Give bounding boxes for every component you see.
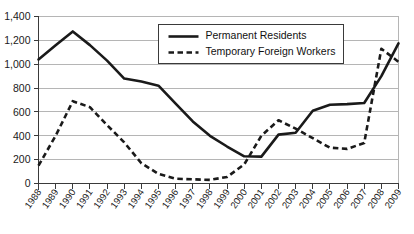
y-axis-tick-labels: 02004006008001,0001,2001,400 <box>4 10 30 189</box>
x-tick-label: 1988 <box>22 187 43 211</box>
legend-label: Temporary Foreign Workers <box>206 45 336 57</box>
y-tick-label: 400 <box>13 130 31 142</box>
x-tick-label: 1990 <box>56 187 77 211</box>
x-tick-label: 2005 <box>314 187 335 211</box>
y-tick-label: 200 <box>13 153 31 165</box>
chart-canvas: 02004006008001,0001,2001,400 19881989199… <box>0 0 414 234</box>
y-tick-label: 1,000 <box>4 58 30 70</box>
x-tick-label: 1991 <box>74 187 95 211</box>
x-tick-label: 2002 <box>262 187 283 211</box>
x-tick-label: 1999 <box>211 187 232 211</box>
x-tick-label: 1989 <box>39 187 60 211</box>
chart-legend: Permanent ResidentsTemporary Foreign Wor… <box>159 25 344 64</box>
x-tick-label: 2009 <box>382 187 403 211</box>
x-tick-label: 2006 <box>331 187 352 211</box>
y-tick-label: 1,200 <box>4 34 30 46</box>
y-tick-label: 800 <box>13 82 31 94</box>
y-tick-label: 1,400 <box>4 10 30 22</box>
x-tick-label: 1993 <box>108 187 129 211</box>
legend-label: Permanent Residents <box>206 29 307 41</box>
x-tick-label: 1997 <box>176 187 197 211</box>
x-tick-label: 2004 <box>296 187 317 211</box>
x-tick-label: 1998 <box>194 187 215 211</box>
x-tick-label: 1995 <box>142 187 163 211</box>
x-tick-label: 1994 <box>125 187 146 211</box>
x-tick-label: 1996 <box>159 187 180 211</box>
y-tick-label: 600 <box>13 106 31 118</box>
x-tick-label: 2003 <box>279 187 300 211</box>
x-tick-label: 1992 <box>91 187 112 211</box>
x-tick-label: 2001 <box>245 187 266 211</box>
y-tick-label: 0 <box>25 177 31 189</box>
line-chart: 02004006008001,0001,2001,400 19881989199… <box>0 0 414 234</box>
series-line-dashed <box>39 49 399 180</box>
x-tick-label: 2007 <box>348 187 369 211</box>
x-tick-label: 2000 <box>228 187 249 211</box>
x-axis-tick-labels: 1988198919901991199219931994199519961997… <box>22 187 403 211</box>
x-tick-label: 2008 <box>365 187 386 211</box>
